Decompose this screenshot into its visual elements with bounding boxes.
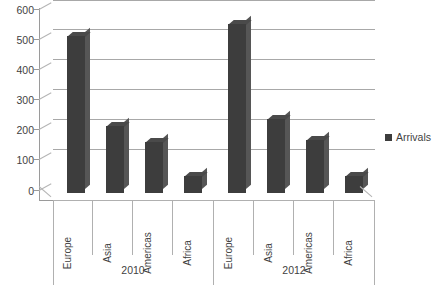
- category-axis-labels: Europe Asia Americas Africa Europe Asia …: [53, 200, 375, 255]
- plot-top-border: [53, 0, 375, 1]
- legend-swatch-icon: [385, 134, 392, 141]
- y-tick-label-200: 200: [16, 125, 34, 135]
- group-label: 2012: [282, 264, 305, 276]
- group-label: 2010: [121, 264, 144, 276]
- category-cell-2010-africa: Africa: [173, 200, 214, 255]
- bar-chart: 600 500 400 300 200 100 0: [0, 0, 435, 286]
- bar-front-face: [267, 119, 285, 193]
- bar-front-face: [145, 142, 163, 193]
- y-axis: 600 500 400 300 200 100 0: [0, 0, 34, 200]
- gridline-500: [53, 29, 375, 30]
- bar-2010-asia[interactable]: [106, 126, 124, 193]
- bar-side-face: [246, 16, 251, 189]
- bar-side-face: [363, 168, 368, 189]
- axis-depth-line: [39, 92, 52, 100]
- group-axis-labels: 2010 2012: [53, 255, 375, 285]
- category-cell-2012-americas: Americas: [294, 200, 334, 255]
- bar-side-face: [285, 110, 290, 189]
- bar-front-face: [106, 126, 124, 193]
- y-tick-label-0: 0: [28, 186, 34, 196]
- gridline-300: [53, 89, 375, 90]
- category-cell-2010-asia: Asia: [93, 200, 133, 255]
- category-cell-2012-europe: Europe: [214, 200, 254, 255]
- group-cell-2010: 2010: [53, 255, 214, 285]
- axis-depth-line: [39, 62, 52, 70]
- plot-area: [53, 0, 375, 193]
- y-tick-label-400: 400: [16, 65, 34, 75]
- bar-2010-africa[interactable]: [184, 176, 202, 193]
- bar-side-face: [124, 118, 129, 189]
- category-cell-2012-africa: Africa: [334, 200, 375, 255]
- bar-2012-americas[interactable]: [306, 140, 324, 193]
- bar-2010-americas[interactable]: [145, 142, 163, 193]
- bar-side-face: [85, 28, 90, 189]
- bar-side-face: [324, 132, 329, 189]
- legend[interactable]: Arrivals: [385, 131, 431, 143]
- y-tick-label-500: 500: [16, 35, 34, 45]
- axis-depth-line: [39, 122, 52, 130]
- bar-front-face: [67, 36, 85, 193]
- bar-front-face: [306, 140, 324, 193]
- y-tick-label-300: 300: [16, 95, 34, 105]
- bar-front-face: [345, 176, 363, 193]
- y-tick-label-600: 600: [16, 5, 34, 15]
- gridline-400: [53, 59, 375, 60]
- bar-front-face: [184, 176, 202, 193]
- axis-depth-line: [39, 32, 52, 40]
- bar-2012-asia[interactable]: [267, 119, 285, 193]
- y-tick-label-100: 100: [16, 155, 34, 165]
- category-cell-2012-asia: Asia: [254, 200, 294, 255]
- bar-2012-africa[interactable]: [345, 176, 363, 193]
- bar-2012-europe[interactable]: [228, 24, 246, 193]
- category-cell-2010-europe: Europe: [53, 200, 93, 255]
- axis-depth-line: [39, 2, 52, 10]
- category-cell-2010-americas: Americas: [133, 200, 173, 255]
- axis-depth-line: [39, 152, 52, 160]
- legend-label: Arrivals: [396, 131, 431, 143]
- axis-depth-line: [39, 183, 52, 191]
- bar-front-face: [228, 24, 246, 193]
- group-cell-2012: 2012: [214, 255, 375, 285]
- gridline-200: [53, 119, 375, 120]
- y-axis-line: [39, 8, 40, 200]
- bar-side-face: [202, 168, 207, 189]
- bar-2010-europe[interactable]: [67, 36, 85, 193]
